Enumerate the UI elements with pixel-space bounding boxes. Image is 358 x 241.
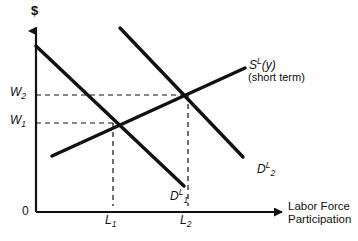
demand-curve-1: [36, 46, 184, 186]
supply-curve-label-base: S: [249, 58, 257, 72]
demand-curve-2: [120, 28, 243, 157]
x-tick-l1: L1: [105, 214, 116, 230]
labor-market-diagram: $ 0 W2 W1 L1 L2 Labor Force Participatio…: [0, 0, 358, 241]
x-tick-l1-subscript: 1: [112, 219, 117, 229]
axis-lines: [36, 31, 282, 212]
y-tick-w2-base: W: [10, 85, 21, 99]
demand-curve-2-label-base: D: [257, 162, 266, 176]
x-axis-title: Labor Force Participation: [288, 200, 351, 226]
x-axis-title-line-1: Labor Force: [288, 200, 351, 213]
demand-curve-1-label-subscript: 1: [183, 195, 188, 205]
supply-curve: [52, 68, 245, 156]
demand-curve-2-label-subscript: 2: [270, 168, 275, 178]
y-tick-w2-subscript: 2: [21, 91, 26, 101]
y-tick-w1: W1: [10, 114, 26, 130]
guide-lines: [36, 95, 188, 206]
supply-curve-note: (short term): [248, 71, 305, 83]
x-tick-l2: L2: [180, 214, 191, 230]
y-tick-w1-subscript: 1: [21, 119, 26, 129]
x-axis-title-line-2: Participation: [288, 213, 351, 226]
y-axis-label: $: [31, 4, 38, 19]
x-tick-l2-subscript: 2: [187, 219, 192, 229]
demand-curve-1-label: DL1: [170, 188, 188, 206]
origin-label: 0: [22, 205, 29, 218]
y-tick-w1-base: W: [10, 113, 21, 127]
supply-curve-label-argument: (y): [262, 58, 276, 72]
demand-curve-2-label: DL2: [257, 161, 275, 179]
x-tick-l2-base: L: [180, 213, 187, 227]
y-tick-w2: W2: [10, 86, 26, 102]
demand-curve-1-label-base: D: [170, 189, 179, 203]
x-tick-l1-base: L: [105, 213, 112, 227]
